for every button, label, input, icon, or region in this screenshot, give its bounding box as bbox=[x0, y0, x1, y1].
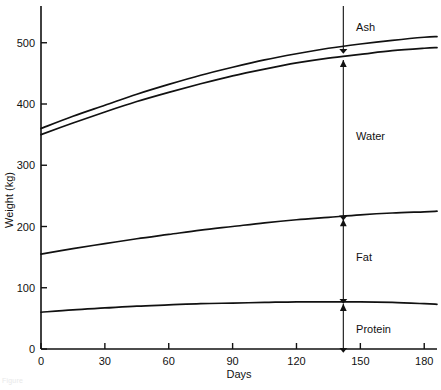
x-axis-tick-labels: 0306090120150180 bbox=[38, 355, 433, 367]
x-tick-label: 30 bbox=[99, 355, 111, 367]
y-tick-label: 200 bbox=[17, 221, 35, 233]
annotation-label: Protein bbox=[356, 323, 391, 335]
y-axis-ticks bbox=[41, 43, 47, 349]
x-tick-label: 60 bbox=[163, 355, 175, 367]
annotation-group: AshWaterFatProtein bbox=[340, 6, 391, 349]
series-line bbox=[41, 37, 437, 129]
x-tick-label: 150 bbox=[351, 355, 369, 367]
series-line bbox=[41, 48, 437, 135]
y-tick-label: 100 bbox=[17, 282, 35, 294]
chart-canvas: 0100200300400500 0306090120150180 Weight… bbox=[0, 0, 441, 390]
y-axis-tick-labels: 0100200300400500 bbox=[17, 37, 35, 355]
annotation-label: Fat bbox=[356, 251, 372, 263]
x-tick-label: 0 bbox=[38, 355, 44, 367]
x-axis-title: Days bbox=[226, 368, 252, 380]
axes-group bbox=[41, 6, 437, 349]
figure-root: 0100200300400500 0306090120150180 Weight… bbox=[0, 0, 441, 390]
series-line bbox=[41, 211, 437, 254]
x-axis-ticks bbox=[41, 343, 424, 349]
annotation-label: Water bbox=[356, 130, 385, 142]
x-tick-label: 180 bbox=[415, 355, 433, 367]
annotation-arrowhead-up bbox=[340, 219, 347, 226]
annotation-arrowhead-up bbox=[340, 304, 347, 311]
data-series-group bbox=[41, 37, 437, 313]
y-tick-label: 500 bbox=[17, 37, 35, 49]
series-line bbox=[41, 302, 437, 312]
y-tick-label: 400 bbox=[17, 98, 35, 110]
y-axis-title: Weight (kg) bbox=[3, 172, 15, 228]
y-tick-label: 0 bbox=[29, 343, 35, 355]
x-tick-label: 90 bbox=[226, 355, 238, 367]
figure-caption: Figure bbox=[2, 377, 23, 384]
annotation-arrowhead-up bbox=[340, 60, 347, 67]
y-tick-label: 300 bbox=[17, 159, 35, 171]
annotation-label: Ash bbox=[356, 21, 375, 33]
x-tick-label: 120 bbox=[287, 355, 305, 367]
